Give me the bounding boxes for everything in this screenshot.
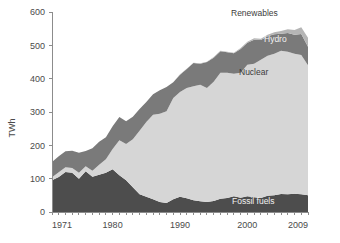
y-tick-label: 0 bbox=[40, 207, 45, 217]
x-tick-label: 2009 bbox=[288, 220, 308, 230]
x-tick-label: 1980 bbox=[103, 220, 123, 230]
x-tick-label: 1990 bbox=[170, 220, 190, 230]
x-axis-ticks: 19711980199020002009 bbox=[52, 212, 308, 230]
y-axis-title: TWh bbox=[7, 119, 17, 138]
chart-container: 0100200300400500600 19711980199020002009… bbox=[0, 0, 340, 243]
y-tick-label: 100 bbox=[30, 174, 45, 184]
area-series-group bbox=[52, 27, 308, 212]
series-label-hydro: Hydro bbox=[264, 34, 287, 44]
x-tick-label: 1971 bbox=[52, 220, 72, 230]
series-label-renewables: Renewables bbox=[231, 8, 278, 18]
y-tick-label: 300 bbox=[30, 107, 45, 117]
y-tick-label: 400 bbox=[30, 74, 45, 84]
stacked-area-chart: 0100200300400500600 19711980199020002009… bbox=[0, 0, 340, 243]
series-label-fossil-fuels: Fossil fuels bbox=[232, 196, 275, 206]
y-tick-label: 200 bbox=[30, 141, 45, 151]
x-tick-label: 2000 bbox=[237, 220, 257, 230]
y-tick-label: 500 bbox=[30, 41, 45, 51]
y-tick-label: 600 bbox=[30, 7, 45, 17]
y-axis-ticks: 0100200300400500600 bbox=[30, 7, 52, 217]
series-label-nuclear: Nuclear bbox=[239, 67, 268, 77]
